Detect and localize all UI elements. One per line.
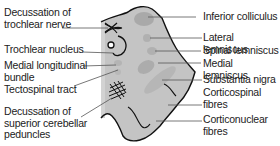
label-corticonuclear-fibres: Corticonuclear fibres	[203, 114, 268, 137]
label-decussation-trochlear: Decussation of trochlear nerve	[4, 7, 71, 30]
label-medial-longitudinal-bundle: Medial longitudinal bundle	[4, 60, 87, 83]
trochlear-nucleus-dot	[108, 42, 114, 48]
label-decussation-scp: Decussation of superior cerebellar pedun…	[4, 106, 87, 141]
label-substantia-nigra: Substantia nigra	[203, 74, 276, 86]
label-trochlear-nucleus: Trochlear nucleus	[4, 44, 84, 56]
label-inferior-colliculus: Inferior colliculus	[203, 11, 277, 23]
label-corticospinal-fibres: Corticospinal fibres	[203, 87, 261, 110]
label-tectospinal-tract: Tectospinal tract	[4, 84, 76, 96]
label-spinal-lemniscus: Spinal lemniscus	[203, 45, 279, 57]
